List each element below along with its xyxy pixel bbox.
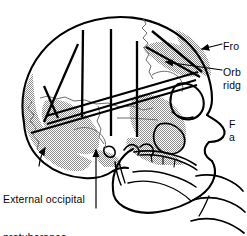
cervical-vertebra-line-3 (191, 219, 244, 233)
mandible-inner-line (128, 181, 191, 201)
label-line-1: Orb (223, 66, 241, 79)
cervical-vertebra-line-2 (193, 198, 245, 212)
frontal-bone-line (206, 70, 212, 115)
frontal-leader (202, 44, 222, 49)
label-orbital-ridge: Orb ridg (223, 66, 241, 91)
label-line-1: Fro (223, 40, 239, 53)
label-facial: F a (229, 118, 236, 143)
skull-diagram-figure: External occipital protuberance Petrous … (0, 0, 247, 236)
cervical-vertebra-line-1 (196, 175, 243, 191)
label-frontal: Fro (223, 40, 239, 53)
label-line-1: F (229, 118, 236, 131)
label-petrous-ridge: Petrous ridge (58, 211, 122, 236)
chin-line (200, 161, 215, 196)
mandible-lower-border (113, 190, 200, 213)
nasal-profile-line (207, 115, 224, 142)
styloid-process-line-2 (119, 162, 125, 183)
label-line-2: ridg (223, 79, 241, 92)
label-line-1: External occipital (3, 193, 85, 206)
upper-lip-line (205, 142, 212, 161)
positioning-line-4 (82, 30, 83, 117)
label-line-2: a (229, 131, 236, 144)
